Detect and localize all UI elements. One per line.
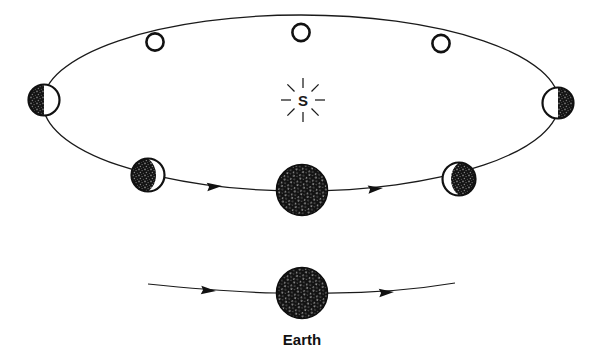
moon-new-top-center xyxy=(292,24,309,41)
orbit-direction-arrow-left xyxy=(207,182,223,191)
moon-new-top-right xyxy=(432,35,449,52)
sun-symbol: S xyxy=(281,78,325,122)
moon-half-right xyxy=(543,88,574,119)
orbit-direction-arrow-right xyxy=(368,184,384,194)
moon-phases-diagram: S xyxy=(0,0,601,362)
earth-center-body xyxy=(277,165,328,216)
new-moon-group xyxy=(146,24,449,52)
moon-new-top-left xyxy=(146,33,163,50)
moon-half-left xyxy=(29,85,60,116)
moon-crescent-lower-right xyxy=(443,163,476,196)
earth-direction-arrow-right xyxy=(379,288,395,297)
earth-label: Earth xyxy=(283,331,321,348)
earth-travel-path: Earth xyxy=(148,268,455,349)
sun-label: S xyxy=(298,92,308,109)
moon-half-right-shadow-tone xyxy=(558,88,574,119)
diagram-canvas: S xyxy=(0,0,601,362)
moon-crescent-lower-left xyxy=(132,159,165,192)
earth-bottom-body xyxy=(277,268,328,319)
moon-half-left-shadow-tone xyxy=(29,85,44,116)
earth-direction-arrow-left xyxy=(201,286,217,295)
